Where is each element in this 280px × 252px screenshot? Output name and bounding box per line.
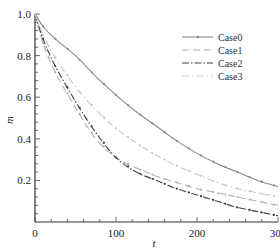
series-marker — [200, 175, 202, 177]
series-marker — [273, 184, 275, 186]
series-marker — [273, 203, 275, 205]
series-marker — [54, 57, 56, 59]
x-tick-label: 0 — [32, 227, 38, 239]
series-marker — [139, 144, 141, 146]
series-marker — [103, 141, 105, 143]
series-marker — [78, 113, 80, 115]
series-marker — [139, 173, 141, 175]
series-marker — [261, 181, 263, 183]
series-marker — [78, 90, 80, 92]
series-marker — [212, 191, 214, 193]
y-tick-label: 1.0 — [17, 8, 31, 20]
series-marker — [188, 191, 190, 193]
legend-label-case0: Case0 — [218, 32, 242, 43]
series-marker — [115, 94, 117, 96]
series-marker — [151, 173, 153, 175]
series-marker — [176, 181, 178, 183]
legend-marker — [197, 36, 200, 39]
series-marker — [151, 122, 153, 124]
series-marker — [42, 34, 44, 36]
series-marker — [249, 190, 251, 192]
series-marker — [224, 184, 226, 186]
series-marker — [164, 159, 166, 161]
series-marker — [249, 209, 251, 211]
legend-label-case1: Case1 — [218, 45, 242, 56]
series-marker — [127, 104, 129, 106]
series-line-case1 — [35, 14, 278, 205]
series-marker — [91, 131, 93, 133]
x-tick-label: 100 — [108, 227, 125, 239]
legend-label-case3: Case3 — [218, 71, 242, 82]
ticks: 01002003000.20.40.60.81.0 — [17, 8, 280, 239]
series-marker — [176, 188, 178, 190]
series-marker — [66, 74, 68, 76]
series-marker — [78, 59, 80, 61]
y-tick-label: 0.2 — [17, 174, 31, 186]
series-marker — [115, 127, 117, 129]
series-marker — [261, 193, 263, 195]
series-marker — [224, 166, 226, 168]
y-tick-label: 0.4 — [17, 133, 31, 145]
series-marker — [139, 168, 141, 170]
series-marker — [224, 193, 226, 195]
series-marker — [127, 136, 129, 138]
y-tick-label: 0.6 — [17, 91, 31, 103]
series-marker — [176, 165, 178, 167]
series-marker — [200, 188, 202, 190]
series-marker — [103, 83, 105, 85]
x-tick-label: 300 — [270, 227, 280, 239]
series-marker — [236, 188, 238, 190]
series-marker — [42, 38, 44, 40]
series-marker — [91, 125, 93, 127]
series-marker — [54, 71, 56, 73]
series-marker — [224, 203, 226, 205]
series-marker — [236, 206, 238, 208]
series-marker — [212, 199, 214, 201]
series-marker — [249, 198, 251, 200]
series-marker — [273, 195, 275, 197]
series-marker — [115, 156, 117, 158]
series-marker — [236, 196, 238, 198]
series-marker — [91, 104, 93, 106]
series-marker — [127, 163, 129, 165]
series-marker — [176, 140, 178, 142]
series-marker — [200, 154, 202, 156]
series-marker — [188, 170, 190, 172]
series-marker — [103, 116, 105, 118]
series-marker — [42, 25, 44, 27]
series-marker — [164, 183, 166, 185]
series-marker — [78, 107, 80, 109]
series-marker — [261, 201, 263, 203]
series-marker — [66, 48, 68, 50]
series-marker — [151, 152, 153, 154]
series-marker — [66, 86, 68, 88]
series-marker — [151, 178, 153, 180]
series-marker — [236, 171, 238, 173]
legend-label-case2: Case2 — [218, 58, 242, 69]
series-marker — [273, 214, 275, 216]
x-tick-label: 200 — [189, 227, 206, 239]
series-marker — [261, 211, 263, 213]
series-marker — [54, 38, 56, 40]
y-tick-label: 0.8 — [17, 50, 31, 62]
series-marker — [91, 71, 93, 73]
y-axis-title: m — [3, 116, 15, 124]
series-marker — [164, 178, 166, 180]
series-marker — [200, 195, 202, 197]
series-marker — [212, 180, 214, 182]
series-marker — [212, 161, 214, 163]
line-chart: 01002003000.20.40.60.81.0 Case0Case1Case… — [0, 0, 280, 252]
series-marker — [249, 176, 251, 178]
series-marker — [66, 92, 68, 94]
legend: Case0Case1Case2Case3 — [182, 32, 242, 82]
series-marker — [188, 185, 190, 187]
series-marker — [164, 131, 166, 133]
series-marker — [127, 165, 129, 167]
series-marker — [54, 65, 56, 67]
series-marker — [188, 147, 190, 149]
x-axis-title: t — [152, 237, 156, 249]
series-marker — [139, 114, 141, 116]
series-marker — [103, 145, 105, 147]
